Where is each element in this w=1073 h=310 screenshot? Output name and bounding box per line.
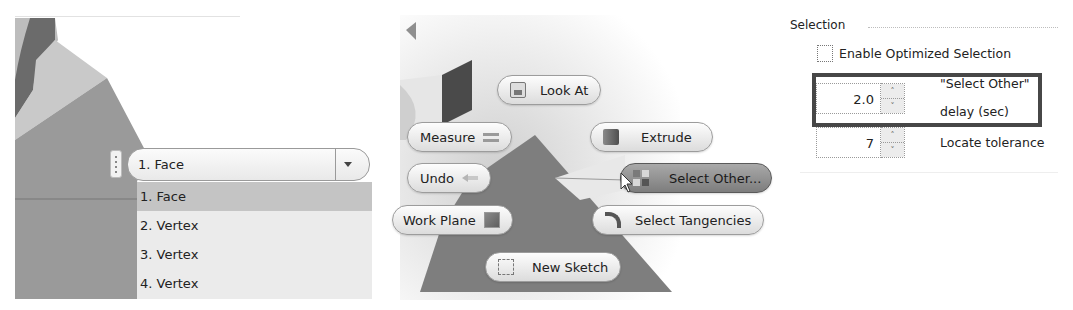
work-plane-icon: [484, 212, 500, 228]
extrude-button[interactable]: Extrude: [590, 122, 713, 152]
select-tangencies-button[interactable]: Select Tangencies: [592, 205, 764, 235]
select-other-delay-label-line2: delay (sec): [940, 104, 1009, 119]
divider: [800, 172, 1058, 173]
measure-label: Measure: [420, 130, 475, 145]
selection-dropdown-list: 1. Face 2. Vertex 3. Vertex 4. Vertex: [137, 182, 372, 299]
measure-button[interactable]: Measure: [407, 122, 512, 152]
look-at-icon: [510, 82, 526, 98]
work-plane-button[interactable]: Work Plane: [392, 205, 513, 235]
select-other-delay-input[interactable]: 2.0: [816, 83, 881, 114]
selection-options-panel: Selection Enable Optimized Selection 2.0…: [780, 0, 1073, 310]
marking-menu-panel: Look At Measure Extrude Undo Select Othe…: [380, 0, 780, 310]
enable-optimized-selection-row[interactable]: Enable Optimized Selection: [817, 45, 1011, 62]
select-other-button[interactable]: Select Other...: [620, 163, 772, 193]
undo-button[interactable]: Undo: [407, 163, 491, 193]
extrude-icon: [603, 129, 619, 145]
locate-tolerance-stepper[interactable]: 7 ˄ ˅: [816, 127, 905, 158]
mouse-cursor-icon: [620, 172, 634, 194]
spin-up-icon[interactable]: ˄: [881, 84, 904, 98]
select-tangencies-icon: [605, 212, 621, 228]
divider: [868, 27, 1058, 28]
enable-optimized-selection-checkbox[interactable]: [817, 45, 833, 62]
group-title: Selection: [790, 18, 845, 32]
list-item[interactable]: 4. Vertex: [137, 269, 372, 298]
spin-down-icon[interactable]: ˅: [881, 142, 904, 157]
spin-down-icon[interactable]: ˅: [881, 98, 904, 113]
list-item[interactable]: 2. Vertex: [137, 211, 372, 240]
select-tangencies-label: Select Tangencies: [629, 213, 751, 228]
work-plane-label: Work Plane: [403, 213, 476, 228]
list-item[interactable]: 3. Vertex: [137, 240, 372, 269]
select-other-label: Select Other...: [657, 171, 761, 186]
new-sketch-label: New Sketch: [522, 260, 608, 275]
look-at-label: Look At: [534, 83, 588, 98]
measure-icon: [483, 129, 499, 145]
locate-tolerance-input[interactable]: 7: [816, 127, 881, 158]
select-other-delay-stepper[interactable]: 2.0 ˄ ˅: [816, 83, 905, 114]
undo-icon: [462, 170, 478, 186]
undo-label: Undo: [420, 171, 454, 186]
select-other-delay-label-line1: "Select Other": [940, 76, 1030, 91]
enable-optimized-selection-label: Enable Optimized Selection: [839, 46, 1011, 61]
drag-handle[interactable]: [110, 150, 122, 178]
new-sketch-icon: [498, 259, 514, 275]
selection-combo[interactable]: 1. Face: [127, 148, 370, 181]
chevron-down-icon[interactable]: [335, 149, 359, 180]
look-at-button[interactable]: Look At: [497, 75, 601, 105]
new-sketch-button[interactable]: New Sketch: [485, 252, 621, 282]
locate-tolerance-label: Locate tolerance: [940, 135, 1045, 150]
list-item[interactable]: 1. Face: [137, 182, 372, 211]
select-other-icon: [633, 170, 649, 186]
spin-up-icon[interactable]: ˄: [881, 128, 904, 142]
extrude-label: Extrude: [627, 130, 692, 145]
combo-value: 1. Face: [128, 157, 335, 172]
selection-list-panel: 1. Face 1. Face 2. Vertex 3. Vertex 4. V…: [0, 0, 380, 310]
